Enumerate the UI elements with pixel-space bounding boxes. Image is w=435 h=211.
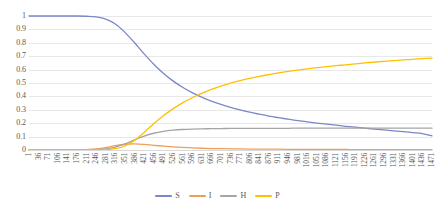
y-tick-label: 0.1 <box>0 133 26 141</box>
x-tick-label: 351 <box>121 153 129 164</box>
y-axis: 00.10.20.30.40.50.60.70.80.91 <box>0 11 26 156</box>
x-tick-label: 456 <box>150 153 158 164</box>
y-tick-label: 0.6 <box>0 66 26 74</box>
x-tick-label: 316 <box>111 153 119 164</box>
x-tick-label: 561 <box>179 153 187 164</box>
x-tick-label: 1051 <box>313 153 321 167</box>
y-tick-label: 0.9 <box>0 25 26 33</box>
x-tick-label: 736 <box>227 153 235 164</box>
y-tick-label: 0.2 <box>0 119 26 127</box>
x-tick-label: 806 <box>246 153 254 164</box>
x-tick-label: 1261 <box>370 153 378 167</box>
line-chart: 00.10.20.30.40.50.60.70.80.91 1367110614… <box>0 0 435 211</box>
x-tick-label: 281 <box>102 153 110 164</box>
x-axis-line <box>29 150 432 151</box>
x-tick-label: 176 <box>73 153 81 164</box>
x-tick-label: 771 <box>236 153 244 164</box>
x-tick-label: 36 <box>35 153 43 160</box>
y-tick-label: 1 <box>0 12 26 20</box>
y-tick-label: 0.8 <box>0 39 26 47</box>
x-tick-label: 1296 <box>380 153 388 167</box>
legend-swatch-icon <box>189 195 206 197</box>
x-tick-label: 1436 <box>418 153 426 167</box>
series-line-h <box>29 128 432 150</box>
legend-item-s[interactable]: S <box>155 192 179 200</box>
x-tick-label: 1 <box>25 153 33 157</box>
y-tick-label: 0.3 <box>0 106 26 114</box>
x-tick-label: 1121 <box>332 153 340 167</box>
series-line-s <box>29 16 432 136</box>
x-tick-label: 1191 <box>351 153 359 167</box>
x-tick-label: 491 <box>159 153 167 164</box>
x-tick-label: 1016 <box>303 153 311 167</box>
x-tick-label: 1366 <box>399 153 407 167</box>
x-tick-label: 1471 <box>428 153 435 167</box>
x-tick-label: 1156 <box>342 153 350 167</box>
y-tick-label: 0.5 <box>0 79 26 87</box>
x-axis: 1367110614117621124628131635138642145649… <box>29 152 432 186</box>
x-tick-label: 1086 <box>322 153 330 167</box>
x-tick-label: 141 <box>63 153 71 164</box>
x-tick-label: 596 <box>188 153 196 164</box>
x-tick-label: 421 <box>140 153 148 164</box>
x-tick-label: 701 <box>217 153 225 164</box>
plot-area <box>29 16 432 150</box>
x-tick-label: 631 <box>198 153 206 164</box>
x-tick-label: 876 <box>265 153 273 164</box>
series-group <box>29 16 432 150</box>
legend-swatch-icon <box>255 195 272 197</box>
legend-item-h[interactable]: H <box>220 192 246 200</box>
x-tick-label: 386 <box>131 153 139 164</box>
x-tick-label: 946 <box>284 153 292 164</box>
legend-label: S <box>175 192 179 200</box>
x-tick-label: 1331 <box>390 153 398 167</box>
x-tick-label: 211 <box>83 153 91 163</box>
x-tick-label: 246 <box>92 153 100 164</box>
x-tick-label: 666 <box>207 153 215 164</box>
x-tick-label: 106 <box>54 153 62 164</box>
x-tick-label: 526 <box>169 153 177 164</box>
x-tick-label: 981 <box>294 153 302 164</box>
y-tick-label: 0.7 <box>0 52 26 60</box>
x-tick-label: 841 <box>255 153 263 164</box>
legend-label: I <box>209 192 212 200</box>
x-tick-label: 1226 <box>361 153 369 167</box>
x-tick-label: 911 <box>274 153 282 163</box>
legend-label: P <box>275 192 279 200</box>
legend-swatch-icon <box>220 195 237 197</box>
chart-legend: SIHP <box>0 189 435 203</box>
legend-swatch-icon <box>155 195 172 197</box>
y-tick-label: 0 <box>0 146 26 154</box>
series-line-p <box>29 58 432 150</box>
legend-item-i[interactable]: I <box>189 192 212 200</box>
y-tick-label: 0.4 <box>0 92 26 100</box>
legend-item-p[interactable]: P <box>255 192 279 200</box>
x-tick-label: 1401 <box>409 153 417 167</box>
legend-label: H <box>240 192 246 200</box>
x-tick-label: 71 <box>44 153 52 160</box>
